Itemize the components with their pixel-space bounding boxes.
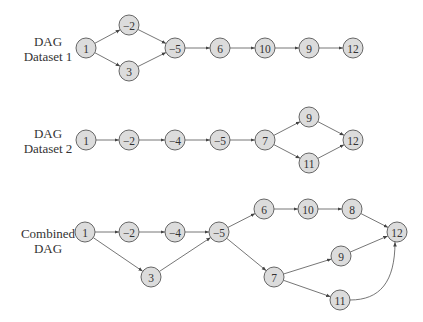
node-label: −5 xyxy=(213,227,225,239)
node-1: 1 xyxy=(76,130,96,150)
node-label: −2 xyxy=(123,227,135,239)
graph-dataset1: 1−23−5610912 xyxy=(76,15,363,81)
edge-1-to-3 xyxy=(93,238,142,272)
edge-7-to-9 xyxy=(274,122,300,136)
node-label: 6 xyxy=(217,43,223,55)
edge-11-to-12 xyxy=(350,242,395,300)
node-9: 9 xyxy=(331,246,351,266)
node-label: 6 xyxy=(261,204,267,216)
node-3: 3 xyxy=(119,61,139,81)
node-label: 7 xyxy=(262,135,268,147)
node-label: 10 xyxy=(302,204,314,216)
dag-diagram: 1−23−56109121−2−4−57911121−2−4−536108791… xyxy=(0,0,423,322)
node-label: 12 xyxy=(347,43,359,55)
node-label: 3 xyxy=(148,272,154,284)
edge--2-to--5 xyxy=(138,29,166,43)
node-label: −5 xyxy=(214,135,226,147)
node-11: 11 xyxy=(330,290,350,310)
edge-3-to--5 xyxy=(138,52,166,66)
edge-7-to-11 xyxy=(283,280,330,296)
node--5: −5 xyxy=(165,38,185,58)
node-label: 9 xyxy=(338,251,344,263)
node-6: 6 xyxy=(254,199,274,219)
node-label: 1 xyxy=(82,227,88,239)
node-label: −5 xyxy=(169,43,181,55)
edge-7-to-11 xyxy=(274,145,300,159)
edge-9-to-12 xyxy=(350,236,388,252)
edge-7-to-9 xyxy=(284,259,332,274)
node-12: 12 xyxy=(387,222,407,242)
node-label: 1 xyxy=(83,135,89,147)
node--2: −2 xyxy=(119,15,139,35)
node-11: 11 xyxy=(299,153,319,173)
node-label: 9 xyxy=(306,43,312,55)
node-label: −4 xyxy=(169,135,181,147)
node-label: 12 xyxy=(347,135,359,147)
node-label: 8 xyxy=(349,204,355,216)
node-label: 12 xyxy=(391,227,403,239)
edge--5-to-6 xyxy=(228,214,255,228)
node--5: −5 xyxy=(209,222,229,242)
node-9: 9 xyxy=(299,38,319,58)
node-label: 10 xyxy=(259,43,271,55)
node-label: 3 xyxy=(126,66,132,78)
node-label: 11 xyxy=(303,158,314,170)
node-label: −2 xyxy=(123,135,135,147)
node--2: −2 xyxy=(119,130,139,150)
node--4: −4 xyxy=(165,130,185,150)
node-8: 8 xyxy=(342,199,362,219)
graph-combined: 1−2−4−536108791112 xyxy=(75,199,407,310)
node--5: −5 xyxy=(210,130,230,150)
node-10: 10 xyxy=(255,38,275,58)
edge-8-to-12 xyxy=(361,214,388,228)
node-9: 9 xyxy=(299,107,319,127)
node-1: 1 xyxy=(76,38,96,58)
node-12: 12 xyxy=(343,130,363,150)
edge-9-to-12 xyxy=(318,122,344,136)
node-1: 1 xyxy=(75,222,95,242)
node-label: −4 xyxy=(169,227,181,239)
node-3: 3 xyxy=(141,267,161,287)
graph-dataset2: 1−2−4−5791112 xyxy=(76,107,363,173)
node-12: 12 xyxy=(343,38,363,58)
node--4: −4 xyxy=(165,222,185,242)
node-label: 7 xyxy=(271,272,277,284)
node-label: 9 xyxy=(306,112,312,124)
edge--5-to-7 xyxy=(227,238,267,270)
node-7: 7 xyxy=(255,130,275,150)
edge-1-to--2 xyxy=(95,30,120,44)
node-6: 6 xyxy=(210,38,230,58)
node-10: 10 xyxy=(298,199,318,219)
node-label: 1 xyxy=(83,43,89,55)
node-label: 11 xyxy=(334,295,345,307)
edge-1-to-3 xyxy=(95,53,120,67)
edge-3-to--5 xyxy=(159,238,210,272)
node-label: −2 xyxy=(123,20,135,32)
node-7: 7 xyxy=(264,267,284,287)
edge-11-to-12 xyxy=(318,145,344,159)
node--2: −2 xyxy=(119,222,139,242)
